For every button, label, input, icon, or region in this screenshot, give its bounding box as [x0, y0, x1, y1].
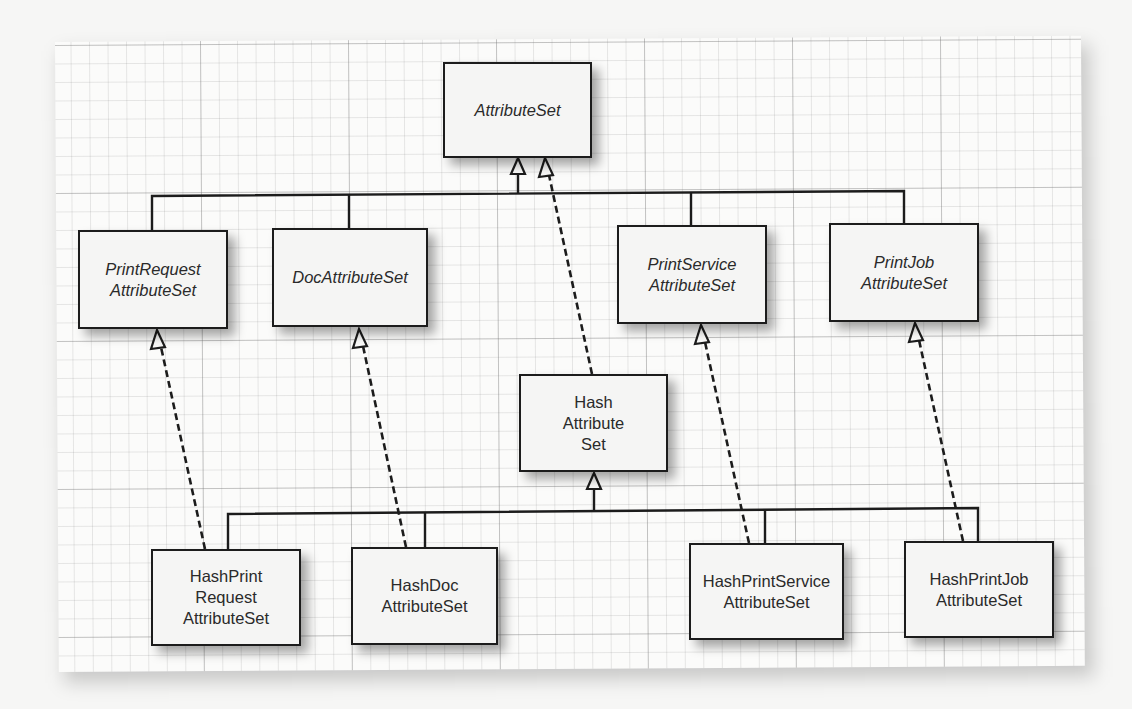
dashed-hashdoc-to-doc — [353, 329, 406, 547]
node-attributeset[interactable]: AttributeSet — [443, 62, 592, 158]
inheritance-bus-top — [152, 173, 904, 230]
node-label: HashPrintService AttributeSet — [703, 571, 830, 613]
node-label: PrintRequest AttributeSet — [105, 259, 200, 301]
node-hashprintserviceattributeset[interactable]: HashPrintService AttributeSet — [689, 543, 844, 640]
node-hashdocattributeset[interactable]: HashDoc AttributeSet — [351, 547, 498, 645]
node-label: HashPrint Request AttributeSet — [183, 566, 269, 629]
node-label: Hash Attribute Set — [563, 392, 624, 455]
node-label: PrintJob AttributeSet — [861, 252, 947, 294]
diagram-canvas: AttributeSet PrintRequest AttributeSet D… — [0, 0, 1132, 709]
node-docattributeset[interactable]: DocAttributeSet — [272, 228, 428, 327]
node-label: HashPrintJob AttributeSet — [929, 569, 1028, 611]
node-hashprintrequestattributeset[interactable]: HashPrint Request AttributeSet — [151, 549, 301, 646]
node-printserviceattributeset[interactable]: PrintService AttributeSet — [617, 225, 767, 324]
node-printrequestattributeset[interactable]: PrintRequest AttributeSet — [78, 230, 228, 329]
arrowhead-attributeset-solid — [511, 158, 525, 174]
dashed-hashattributeset-to-attributeset — [539, 158, 592, 374]
node-hashprintjobattributeset[interactable]: HashPrintJob AttributeSet — [904, 541, 1054, 638]
inheritance-bus-bottom — [228, 488, 978, 549]
node-label: HashDoc AttributeSet — [381, 575, 467, 617]
node-label: DocAttributeSet — [292, 267, 408, 288]
arrowhead-hashattributeset-solid — [587, 473, 601, 489]
dashed-hashprintrequest-to-printrequest — [151, 330, 205, 549]
node-label: PrintService AttributeSet — [648, 254, 737, 296]
node-hashattributeset[interactable]: Hash Attribute Set — [519, 374, 668, 472]
node-printjobattributeset[interactable]: PrintJob AttributeSet — [829, 223, 979, 322]
node-label: AttributeSet — [474, 100, 560, 121]
